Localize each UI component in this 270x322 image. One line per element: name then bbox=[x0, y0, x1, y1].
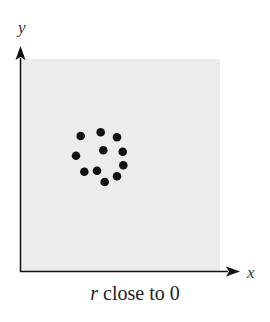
data-point bbox=[76, 132, 85, 141]
data-point bbox=[118, 147, 127, 156]
data-point bbox=[80, 167, 89, 176]
x-axis-arrow-icon bbox=[226, 267, 240, 277]
data-point bbox=[113, 133, 122, 142]
data-point bbox=[100, 178, 109, 187]
y-axis-label: y bbox=[16, 18, 26, 37]
data-point bbox=[96, 128, 105, 137]
scatter-plot: y x bbox=[0, 0, 270, 322]
data-point bbox=[119, 161, 128, 170]
x-axis-label: x bbox=[246, 263, 255, 282]
caption-text: close to 0 bbox=[98, 282, 180, 304]
data-point bbox=[93, 166, 102, 175]
chart-caption: r close to 0 bbox=[0, 282, 270, 305]
caption-variable: r bbox=[90, 282, 98, 304]
data-point bbox=[99, 146, 108, 155]
y-axis-arrow-icon bbox=[16, 46, 26, 60]
data-point bbox=[72, 151, 81, 160]
data-point bbox=[113, 172, 122, 181]
